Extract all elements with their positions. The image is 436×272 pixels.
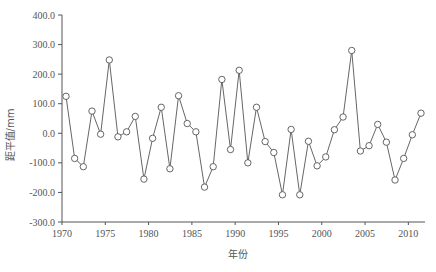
line-chart: 400.0300.0200.0100.00.0-100.0-200.0-300.… [0,0,436,272]
data-point-marker [158,104,164,110]
data-point-marker [392,177,398,183]
y-tick-label: 400.0 [33,10,56,21]
data-point-marker [89,108,95,114]
y-axis-title: 距平值/mm [4,109,16,162]
data-point-marker [201,184,207,190]
data-point-marker [305,138,311,144]
data-point-marker [175,93,181,99]
y-tick-label: 100.0 [33,98,56,109]
data-point-marker [357,148,363,154]
data-point-marker [418,110,424,116]
x-tick-label: 2005 [355,228,375,239]
x-tick-label: 1995 [268,228,288,239]
data-point-marker [262,138,268,144]
x-axis: 197019751980198519901995200020052010 [52,222,425,239]
x-tick-label: 1970 [52,228,72,239]
data-point-marker [141,176,147,182]
y-tick-label: 300.0 [33,39,56,50]
data-point-marker [184,120,190,126]
x-tick-label: 1975 [95,228,115,239]
data-point-marker [383,139,389,145]
data-series [63,47,424,198]
data-point-marker [375,121,381,127]
data-point-marker [115,134,121,140]
x-tick-label: 1990 [225,228,245,239]
data-point-marker [63,93,69,99]
data-point-marker [149,135,155,141]
y-axis: 400.0300.0200.0100.00.0-100.0-200.0-300.… [29,10,62,228]
x-tick-label: 2000 [312,228,332,239]
y-tick-label: -300.0 [29,217,55,228]
data-point-marker [409,132,415,138]
x-axis-title: 年份 [228,248,248,260]
y-tick-label: 0.0 [43,128,56,139]
x-tick-label: 1985 [182,228,202,239]
data-point-marker [132,113,138,119]
y-tick-label: -200.0 [29,187,55,198]
data-point-marker [236,67,242,73]
data-point-marker [340,114,346,120]
data-point-marker [245,160,251,166]
data-point-marker [279,192,285,198]
data-point-marker [323,154,329,160]
y-tick-label: -100.0 [29,157,55,168]
data-point-marker [271,149,277,155]
data-point-marker [219,76,225,82]
data-point-marker [106,57,112,63]
data-point-marker [349,47,355,53]
data-point-marker [97,131,103,137]
y-tick-label: 200.0 [33,69,56,80]
data-point-marker [210,164,216,170]
data-point-marker [314,163,320,169]
data-point-marker [400,155,406,161]
data-point-marker [227,146,233,152]
data-point-marker [366,143,372,149]
series-line [66,50,421,194]
data-point-marker [71,155,77,161]
data-point-marker [193,129,199,135]
data-point-marker [167,166,173,172]
data-point-marker [288,126,294,132]
data-point-marker [331,127,337,133]
data-point-marker [123,129,129,135]
x-tick-label: 2010 [398,228,418,239]
data-point-marker [80,164,86,170]
x-tick-label: 1980 [139,228,159,239]
data-point-marker [253,104,259,110]
data-point-marker [297,192,303,198]
